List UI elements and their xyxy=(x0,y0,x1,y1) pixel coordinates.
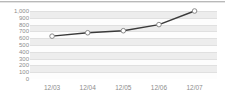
gridline xyxy=(30,38,217,39)
line-chart-widget: 1,0009008007006005004003002001000 12/031… xyxy=(0,0,225,104)
gridline xyxy=(30,25,217,26)
x-axis: 12/0312/0412/0512/0612/07 xyxy=(30,84,217,96)
top-divider-rule-soft xyxy=(0,2,225,3)
x-axis-tick-label: 12/06 xyxy=(151,84,167,92)
gridline xyxy=(30,65,217,66)
y-axis-tick-label: 0 xyxy=(2,76,29,82)
grid-band xyxy=(30,11,217,18)
y-axis-tick-label: 900 xyxy=(2,15,29,21)
y-axis-tick-label: 800 xyxy=(2,22,29,28)
y-axis: 1,0009008007006005004003002001000 xyxy=(0,0,29,104)
gridline xyxy=(30,59,217,60)
x-axis-tick-label: 12/07 xyxy=(186,84,202,92)
gridline xyxy=(30,52,217,53)
gridline xyxy=(30,31,217,32)
gridline xyxy=(30,72,217,73)
y-axis-tick-label: 700 xyxy=(2,28,29,34)
x-axis-tick-label: 12/04 xyxy=(80,84,96,92)
gridline xyxy=(30,18,217,19)
grid-band xyxy=(30,38,217,45)
y-axis-tick-label: 400 xyxy=(2,49,29,55)
y-axis-tick-label: 200 xyxy=(2,62,29,68)
y-axis-tick-label: 500 xyxy=(2,42,29,48)
plot-area xyxy=(30,11,217,79)
y-axis-tick-label: 300 xyxy=(2,56,29,62)
x-axis-tick-label: 12/03 xyxy=(44,84,60,92)
gridline xyxy=(30,11,217,12)
x-axis-tick-label: 12/05 xyxy=(115,84,131,92)
y-axis-tick-label: 600 xyxy=(2,35,29,41)
y-axis-tick-label: 1,000 xyxy=(2,8,29,14)
y-axis-tick-label: 100 xyxy=(2,69,29,75)
gridline xyxy=(30,45,217,46)
